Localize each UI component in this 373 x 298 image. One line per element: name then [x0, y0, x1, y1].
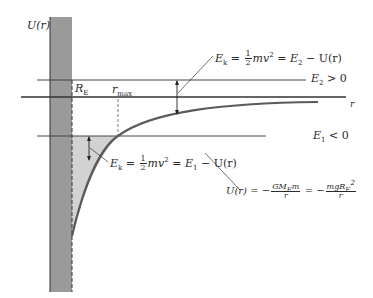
- e2-label: E2 > 0: [311, 73, 347, 84]
- tail: − U(r): [197, 157, 236, 170]
- ek-lhs: E: [110, 157, 118, 170]
- eq: =: [227, 52, 243, 65]
- fraction-2: mgRE2r: [326, 183, 356, 200]
- f1-num: GM: [272, 182, 287, 191]
- kinetic-energy-shaded-region: [72, 136, 118, 235]
- frac-den: 2: [245, 59, 252, 67]
- e2-leader-line: [178, 56, 213, 93]
- f2-den: r: [326, 192, 356, 200]
- e1-rest: < 0: [326, 129, 349, 142]
- eq: =: [122, 157, 138, 170]
- y-axis-label: U(r): [27, 20, 50, 31]
- arrowhead-up: [175, 80, 179, 85]
- rhs: = E: [274, 52, 298, 65]
- earth-radius-label: RE: [75, 83, 88, 94]
- mv: mv: [253, 52, 270, 65]
- frac-den: 2: [140, 164, 147, 172]
- formula-mid: = −: [301, 185, 324, 196]
- half-fraction: 12: [245, 50, 252, 67]
- lower-kinetic-equation: Ek = 12mv2 = E1 − U(r): [110, 155, 237, 172]
- earth-wall: [50, 17, 72, 292]
- x-axis-label: r: [350, 100, 354, 109]
- potential-formula: U(r) = −GMEmr = −mgRE2r: [226, 183, 357, 200]
- f2-num: mgR: [327, 182, 346, 191]
- e1-label: E1 < 0: [313, 130, 349, 141]
- rhs: = E: [169, 157, 193, 170]
- upper-kinetic-equation: Ek = 12mv2 = E2 − U(r): [215, 50, 342, 67]
- fraction-1: GMEmr: [271, 183, 300, 200]
- potential-energy-diagram: [0, 0, 373, 298]
- f1-tail: m: [292, 182, 300, 191]
- e1-base: E: [313, 129, 321, 142]
- e2-base: E: [311, 72, 319, 85]
- half-fraction: 12: [140, 155, 147, 172]
- f2-sup: 2: [350, 179, 354, 187]
- rmax-label: rmax: [112, 84, 132, 95]
- f1-den: r: [271, 192, 300, 200]
- tail: − U(r): [302, 52, 341, 65]
- mv: mv: [148, 157, 165, 170]
- e2-rest: > 0: [324, 72, 347, 85]
- earth-radius-sub: E: [83, 89, 88, 97]
- ek-lhs: E: [215, 52, 223, 65]
- rmax-sub: max: [117, 90, 132, 98]
- formula-lhs: U(r) = −: [226, 185, 270, 196]
